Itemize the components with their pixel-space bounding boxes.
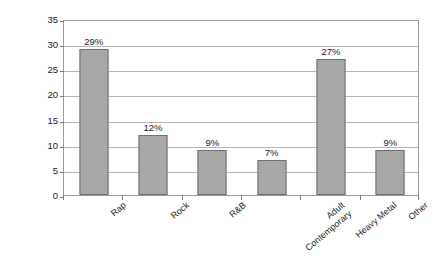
bar-value-label: 12% bbox=[143, 122, 162, 133]
y-axis-tick-labels: 05101520253035 bbox=[28, 20, 58, 196]
x-category-label-line: Heavy Metal bbox=[354, 200, 399, 240]
y-tick-label: 30 bbox=[28, 40, 58, 50]
bar[interactable] bbox=[79, 49, 108, 195]
bar[interactable] bbox=[198, 150, 227, 195]
bar-value-label: 7% bbox=[265, 147, 279, 158]
bar-value-label: 9% bbox=[383, 137, 397, 148]
x-category-label-line: Rock bbox=[169, 200, 191, 221]
x-category-label-line: R&B bbox=[228, 200, 249, 220]
y-tick-label: 15 bbox=[28, 116, 58, 126]
bar-value-label: 9% bbox=[205, 137, 219, 148]
bar-value-label: 27% bbox=[321, 46, 340, 57]
x-category-label: Other bbox=[407, 200, 431, 223]
y-tick-label: 5 bbox=[28, 166, 58, 176]
bar-slot: 7% bbox=[242, 21, 301, 195]
x-category-label: R&B bbox=[228, 200, 249, 220]
bar-slot: 29% bbox=[64, 21, 123, 195]
bar-slot: 12% bbox=[123, 21, 182, 195]
y-tick-label: 10 bbox=[28, 141, 58, 151]
y-tick-label: 35 bbox=[28, 15, 58, 25]
bar-slot: 9% bbox=[183, 21, 242, 195]
x-category-label-line: Rap bbox=[109, 200, 128, 218]
plot-area: 29%12%9%7%27%9% bbox=[63, 20, 419, 196]
bar[interactable] bbox=[316, 59, 345, 195]
bar-slot: 9% bbox=[361, 21, 420, 195]
x-category-label: Rock bbox=[169, 200, 192, 222]
bar-slot: 27% bbox=[301, 21, 360, 195]
x-category-label: Rap bbox=[109, 200, 129, 219]
bar-value-label: 29% bbox=[84, 36, 103, 47]
bar[interactable] bbox=[257, 160, 286, 195]
x-category-label: AdultContemporary bbox=[296, 200, 354, 254]
bar[interactable] bbox=[376, 150, 405, 195]
y-tick-label: 20 bbox=[28, 90, 58, 100]
bars-layer: 29%12%9%7%27%9% bbox=[64, 21, 418, 195]
y-tick-label: 25 bbox=[28, 65, 58, 75]
bar-chart: % featuring violence 05101520253035 29%1… bbox=[0, 0, 440, 274]
x-category-label-line: Other bbox=[407, 200, 431, 222]
x-category-label: Heavy Metal bbox=[354, 200, 399, 241]
bar[interactable] bbox=[138, 135, 167, 195]
y-tick-label: 0 bbox=[28, 191, 58, 201]
x-axis-category-labels: RapRockR&BAdultContemporaryHeavy MetalOt… bbox=[63, 200, 419, 274]
